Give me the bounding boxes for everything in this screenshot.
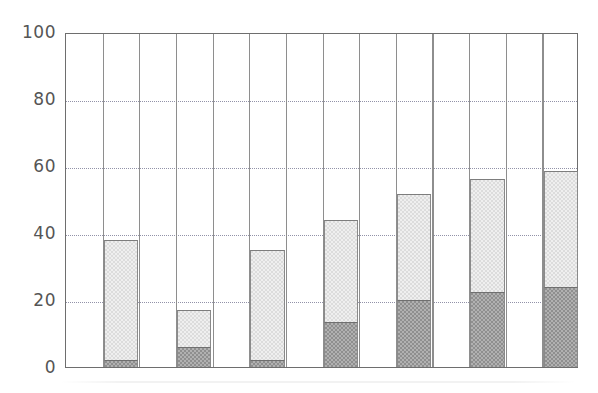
y-axis-tick-text: 20 bbox=[33, 290, 56, 310]
bar-2 bbox=[177, 310, 211, 367]
y-axis-tick-text: 100 bbox=[22, 22, 56, 42]
bar-segment-upper bbox=[324, 220, 358, 322]
bar-segment-lower bbox=[397, 300, 431, 367]
bar-7 bbox=[544, 171, 578, 367]
gridline bbox=[66, 168, 577, 169]
bar-segment-lower bbox=[544, 287, 578, 367]
bar-4 bbox=[324, 220, 358, 367]
bar-5 bbox=[397, 194, 431, 367]
column-separator bbox=[286, 34, 287, 367]
bar-segment-upper bbox=[250, 250, 284, 361]
bar-segment-upper bbox=[397, 194, 431, 300]
bar-segment-lower bbox=[324, 322, 358, 367]
column-separator bbox=[213, 34, 214, 367]
y-axis-tick-text: 60 bbox=[33, 156, 56, 176]
column-separator bbox=[139, 34, 140, 367]
gridline bbox=[66, 101, 577, 102]
bar-6 bbox=[470, 179, 504, 367]
bar-3 bbox=[250, 250, 284, 367]
bar-segment-lower bbox=[177, 347, 211, 367]
plot-area bbox=[65, 33, 578, 368]
bar-segment-upper bbox=[104, 240, 138, 361]
bar-segment-lower bbox=[250, 360, 284, 367]
y-axis-tick-text: 0 bbox=[45, 357, 56, 377]
bar-segment-upper bbox=[544, 171, 578, 287]
bar-segment-lower bbox=[470, 292, 504, 367]
bar-segment-upper bbox=[470, 179, 504, 291]
bar-segment-lower bbox=[104, 360, 138, 367]
column-separator bbox=[506, 34, 507, 367]
bar-1 bbox=[104, 240, 138, 367]
stacked-bar-chart: 020406080100 bbox=[0, 0, 598, 393]
y-axis-tick-text: 80 bbox=[33, 89, 56, 109]
column-separator bbox=[359, 34, 360, 367]
column-separator bbox=[432, 34, 433, 367]
bar-segment-upper bbox=[177, 310, 211, 347]
scan-artifact bbox=[60, 381, 576, 383]
y-axis-tick-text: 40 bbox=[33, 223, 56, 243]
